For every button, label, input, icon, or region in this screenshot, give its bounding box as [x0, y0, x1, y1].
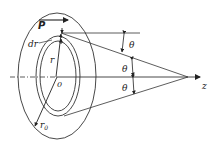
- radius-r-arrow: [56, 34, 61, 77]
- theta-top-label: θ: [129, 40, 135, 50]
- ring-geometry-diagram: P r dr 0 r0 θ θ θ z: [0, 0, 219, 153]
- center-label: 0: [57, 80, 62, 89]
- z-axis-label: z: [201, 81, 207, 91]
- dr-label: dr: [28, 39, 39, 49]
- theta-arc-mid: [132, 60, 133, 76]
- theta-arc-bot: [133, 78, 134, 94]
- theta-bot-label: θ: [122, 83, 128, 93]
- outer-radius-line: [35, 77, 57, 126]
- ring-outer-edge: [36, 36, 80, 116]
- vector-p-label: P: [38, 20, 46, 31]
- radius-r-label: r: [50, 55, 55, 65]
- ring-inner-edge: [40, 41, 76, 111]
- theta-mid-label: θ: [122, 64, 128, 74]
- theta-arc-top: [122, 34, 124, 52]
- outer-circle: [18, 13, 96, 139]
- outer-radius-label: r0: [40, 120, 48, 131]
